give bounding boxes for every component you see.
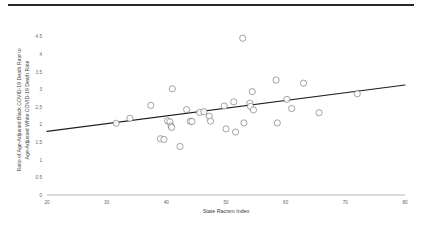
y-tick-label: 0.5 — [36, 175, 43, 180]
data-point-circle[interactable] — [354, 91, 360, 97]
data-point-circle[interactable] — [273, 77, 279, 83]
figure-container: 00.511.522.533.544.5 20304050607080 Stat… — [0, 0, 422, 231]
data-point-circle[interactable] — [249, 89, 255, 95]
data-point[interactable] — [201, 109, 207, 115]
data-point-circle[interactable] — [289, 105, 295, 111]
data-point[interactable] — [113, 120, 119, 126]
data-point[interactable] — [223, 126, 229, 132]
data-point[interactable] — [241, 120, 247, 126]
data-point[interactable] — [127, 115, 133, 121]
x-axis-tick-labels: 20304050607080 — [44, 200, 408, 205]
data-point-circle[interactable] — [184, 106, 190, 112]
data-point-circle[interactable] — [127, 115, 133, 121]
x-tick-label: 20 — [44, 200, 50, 205]
y-tick-label: 1.5 — [36, 140, 43, 145]
y-tick-label: 2.5 — [36, 105, 43, 110]
data-point-circle[interactable] — [207, 118, 213, 124]
y-tick-label: 4 — [39, 52, 42, 57]
data-point[interactable] — [300, 80, 306, 86]
data-point[interactable] — [232, 129, 238, 135]
data-point-circle[interactable] — [231, 99, 237, 105]
x-tick-label: 80 — [402, 200, 408, 205]
data-point-circle[interactable] — [274, 120, 280, 126]
data-point[interactable] — [189, 118, 195, 124]
data-point-circle[interactable] — [250, 107, 256, 113]
data-point[interactable] — [249, 89, 255, 95]
data-point[interactable] — [250, 107, 256, 113]
y-axis-title-line-2: Age-Adjusted White COVID-19 Death Rate — [24, 60, 30, 159]
x-tick-label: 40 — [164, 200, 170, 205]
data-point-circle[interactable] — [148, 102, 154, 108]
data-point-circle[interactable] — [316, 110, 322, 116]
data-point-circle[interactable] — [232, 129, 238, 135]
y-tick-label: 3 — [39, 87, 42, 92]
x-tick-label: 30 — [104, 200, 110, 205]
data-points-layer — [113, 35, 360, 149]
data-point[interactable] — [221, 103, 227, 109]
data-point-circle[interactable] — [169, 124, 175, 130]
data-point[interactable] — [289, 105, 295, 111]
data-point-circle[interactable] — [284, 96, 290, 102]
data-point[interactable] — [240, 35, 246, 41]
data-point[interactable] — [161, 136, 167, 142]
data-point[interactable] — [274, 120, 280, 126]
data-point[interactable] — [231, 99, 237, 105]
data-point-circle[interactable] — [201, 109, 207, 115]
y-axis-tick-labels: 00.511.522.533.544.5 — [36, 34, 43, 197]
x-tick-label: 70 — [343, 200, 349, 205]
data-point-circle[interactable] — [241, 120, 247, 126]
data-point-circle[interactable] — [161, 136, 167, 142]
data-point[interactable] — [148, 102, 154, 108]
scatter-plot: 00.511.522.533.544.5 20304050607080 Stat… — [0, 0, 422, 231]
data-point-circle[interactable] — [223, 126, 229, 132]
data-point[interactable] — [169, 86, 175, 92]
data-point[interactable] — [177, 143, 183, 149]
data-point[interactable] — [316, 110, 322, 116]
x-tick-label: 60 — [283, 200, 289, 205]
data-point-circle[interactable] — [177, 143, 183, 149]
y-tick-label: 1 — [39, 158, 42, 163]
y-tick-label: 0 — [39, 193, 42, 198]
x-axis-title: State Racism Index — [203, 208, 250, 214]
data-point-circle[interactable] — [221, 103, 227, 109]
data-point[interactable] — [207, 118, 213, 124]
data-point-circle[interactable] — [189, 118, 195, 124]
data-point[interactable] — [354, 91, 360, 97]
data-point-circle[interactable] — [240, 35, 246, 41]
y-tick-label: 3.5 — [36, 70, 43, 75]
data-point[interactable] — [284, 96, 290, 102]
y-axis-title-line-1: Ratio of Age-Adjusted Black COVID-19 Dea… — [16, 48, 22, 171]
data-point-circle[interactable] — [300, 80, 306, 86]
data-point-circle[interactable] — [113, 120, 119, 126]
data-point[interactable] — [184, 106, 190, 112]
data-point[interactable] — [273, 77, 279, 83]
data-point-circle[interactable] — [169, 86, 175, 92]
data-point[interactable] — [169, 124, 175, 130]
x-tick-label: 50 — [223, 200, 229, 205]
y-tick-label: 4.5 — [36, 34, 43, 39]
y-tick-label: 2 — [39, 122, 42, 127]
